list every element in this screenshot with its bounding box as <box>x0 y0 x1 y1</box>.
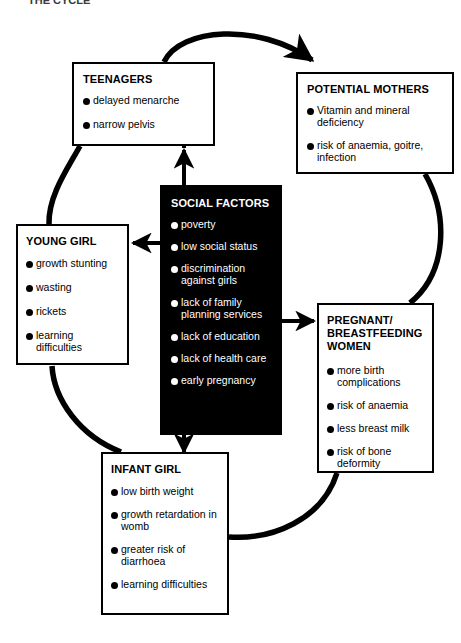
connector-teenagers-to-potential-mothers <box>164 34 312 62</box>
node-teenagers-title: TEENAGERS <box>83 73 207 86</box>
list-item: learning difficulties <box>111 579 222 591</box>
list-item-label: Vitamin and mineral deficiency <box>317 104 410 128</box>
list-item: lack of health care <box>171 353 274 365</box>
node-teenagers[interactable]: TEENAGERS delayed menarche narrow pelvis <box>72 62 215 146</box>
node-pregnant-breastfeeding-women[interactable]: PREGNANT/ BREASTFEEDING WOMEN more birth… <box>317 303 434 473</box>
page-caption: THE CYCLE <box>28 0 90 6</box>
list-item-label: lack of health care <box>181 352 266 364</box>
list-item-label: lack of education <box>181 330 260 342</box>
node-infant-girl-title: INFANT GIRL <box>111 463 222 476</box>
list-item-label: learning difficulties <box>36 329 82 353</box>
list-item: growth stunting <box>26 258 122 270</box>
list-item: risk of anaemia <box>327 400 427 412</box>
bullet-icon <box>171 266 178 273</box>
connector-young-girl-to-teenagers <box>49 146 80 224</box>
bullet-icon <box>26 261 33 268</box>
list-item: low birth weight <box>111 486 222 498</box>
list-item-label: wasting <box>36 281 72 293</box>
node-young-girl-title: YOUNG GIRL <box>26 235 122 248</box>
list-item: discrimination against girls <box>171 263 274 287</box>
node-pregnant-breastfeeding-women-list: more birth complications risk of anaemia… <box>327 365 427 470</box>
list-item-label: more birth complications <box>337 364 401 388</box>
list-item: risk of bone deformity <box>327 446 427 470</box>
list-item-label: less breast milk <box>337 422 409 434</box>
list-item-label: risk of anaemia, goitre, infection <box>317 139 423 163</box>
node-infant-girl[interactable]: INFANT GIRL low birth weight growth reta… <box>101 452 229 615</box>
list-item: delayed menarche <box>83 95 207 107</box>
bullet-icon <box>327 426 334 433</box>
node-young-girl-list: growth stunting wasting rickets learning… <box>26 258 122 354</box>
list-item-label: delayed menarche <box>93 94 179 106</box>
list-item: narrow pelvis <box>83 119 207 131</box>
bullet-icon <box>327 449 334 456</box>
list-item: more birth complications <box>327 365 427 389</box>
bullet-icon <box>83 98 90 105</box>
list-item-label: risk of bone deformity <box>337 445 391 469</box>
bullet-icon <box>111 547 118 554</box>
list-item-label: narrow pelvis <box>93 118 155 130</box>
diagram-page: THE CYCLE TEENAGERS delayed menarc <box>0 0 461 643</box>
list-item: wasting <box>26 282 122 294</box>
list-item-label: greater risk of diarrhoea <box>121 543 185 567</box>
list-item: growth retardation in womb <box>111 509 222 533</box>
list-item-label: low birth weight <box>121 485 193 497</box>
bullet-icon <box>171 334 178 341</box>
bullet-icon <box>307 143 314 150</box>
list-item: early pregnancy <box>171 375 274 387</box>
bullet-icon <box>171 356 178 363</box>
list-item-label: lack of family planning services <box>181 296 262 320</box>
list-item: greater risk of diarrhoea <box>111 544 222 568</box>
node-young-girl[interactable]: YOUNG GIRL growth stunting wasting ricke… <box>16 224 129 365</box>
list-item: lack of education <box>171 331 274 343</box>
bullet-icon <box>26 285 33 292</box>
node-potential-mothers-title: POTENTIAL MOTHERS <box>307 83 446 96</box>
bullet-icon <box>26 309 33 316</box>
list-item-label: early pregnancy <box>181 374 256 386</box>
bullet-icon <box>171 222 178 229</box>
list-item-label: low social status <box>181 240 257 252</box>
node-social-factors-title: SOCIAL FACTORS <box>171 197 274 210</box>
list-item: learning difficulties <box>26 330 122 354</box>
bullet-icon <box>111 582 118 589</box>
list-item: low social status <box>171 241 274 253</box>
bullet-icon <box>83 122 90 129</box>
bullet-icon <box>171 244 178 251</box>
list-item-label: growth retardation in womb <box>121 508 217 532</box>
bullet-icon <box>327 403 334 410</box>
list-item: lack of family planning services <box>171 297 274 321</box>
node-social-factors-list: poverty low social status discrimination… <box>171 219 274 387</box>
bullet-icon <box>171 378 178 385</box>
list-item: rickets <box>26 306 122 318</box>
list-item-label: learning difficulties <box>121 578 207 590</box>
bullet-icon <box>327 368 334 375</box>
bullet-icon <box>111 512 118 519</box>
list-item: risk of anaemia, goitre, infection <box>307 140 446 164</box>
connector-infant-girl-to-young-girl <box>52 366 121 452</box>
bullet-icon <box>171 300 178 307</box>
node-potential-mothers[interactable]: POTENTIAL MOTHERS Vitamin and mineral de… <box>296 72 454 174</box>
list-item: Vitamin and mineral deficiency <box>307 105 446 129</box>
node-teenagers-list: delayed menarche narrow pelvis <box>83 95 207 131</box>
node-social-factors[interactable]: SOCIAL FACTORS poverty low social status… <box>160 185 282 435</box>
list-item-label: poverty <box>181 218 215 230</box>
bullet-icon <box>307 108 314 115</box>
list-item-label: growth stunting <box>36 257 107 269</box>
bullet-icon <box>111 489 118 496</box>
connector-pregnant-to-infant-girl <box>229 473 337 537</box>
connector-potential-mothers-to-pregnant <box>410 174 441 303</box>
list-item: less breast milk <box>327 423 427 435</box>
node-potential-mothers-list: Vitamin and mineral deficiency risk of a… <box>307 105 446 164</box>
list-item: poverty <box>171 219 274 231</box>
bullet-icon <box>26 333 33 340</box>
list-item-label: discrimination against girls <box>181 262 245 286</box>
node-pregnant-breastfeeding-women-title: PREGNANT/ BREASTFEEDING WOMEN <box>327 314 427 353</box>
list-item-label: risk of anaemia <box>337 399 408 411</box>
node-infant-girl-list: low birth weight growth retardation in w… <box>111 486 222 591</box>
list-item-label: rickets <box>36 305 66 317</box>
